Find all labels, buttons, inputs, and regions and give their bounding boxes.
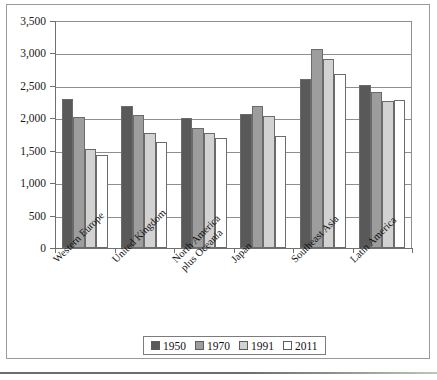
bar[interactable] bbox=[121, 106, 133, 248]
y-tick-mark bbox=[50, 118, 55, 119]
y-tick-label: 0 bbox=[2, 242, 46, 254]
bottom-rule bbox=[0, 372, 437, 374]
gridline bbox=[55, 119, 411, 120]
y-tick-label: 2,000 bbox=[2, 112, 46, 124]
legend-item-1970[interactable]: 1970 bbox=[195, 340, 230, 352]
bar[interactable] bbox=[96, 155, 108, 248]
chart-legend: 1950197019912011 bbox=[143, 336, 326, 355]
y-tick-label: 500 bbox=[2, 210, 46, 222]
y-tick-label: 1,500 bbox=[2, 145, 46, 157]
legend-item-1950[interactable]: 1950 bbox=[151, 340, 186, 352]
bar-group bbox=[181, 21, 227, 248]
legend-item-2011[interactable]: 2011 bbox=[283, 340, 318, 352]
legend-swatch-icon bbox=[283, 341, 292, 350]
y-axis-line bbox=[55, 21, 56, 249]
bar[interactable] bbox=[275, 136, 287, 248]
bar-group bbox=[300, 21, 346, 248]
gridline bbox=[55, 184, 411, 185]
y-tick-mark bbox=[50, 86, 55, 87]
y-tick-label: 3,500 bbox=[2, 15, 46, 27]
bar[interactable] bbox=[181, 118, 193, 248]
bar[interactable] bbox=[240, 114, 252, 248]
y-tick-mark bbox=[50, 53, 55, 54]
bar-group bbox=[240, 21, 286, 248]
legend-swatch-icon bbox=[151, 341, 160, 350]
bar[interactable] bbox=[263, 116, 275, 248]
y-tick-mark bbox=[50, 21, 55, 22]
y-tick-mark bbox=[50, 151, 55, 152]
bar-group bbox=[359, 21, 405, 248]
y-tick-label: 2,500 bbox=[2, 80, 46, 92]
y-tick-label: 1,000 bbox=[2, 177, 46, 189]
bar[interactable] bbox=[252, 106, 264, 248]
legend-label: 2011 bbox=[295, 340, 318, 352]
bar[interactable] bbox=[62, 99, 74, 248]
gridline bbox=[55, 54, 411, 55]
y-tick-label: 3,000 bbox=[2, 47, 46, 59]
legend-label: 1991 bbox=[251, 340, 274, 352]
gridline bbox=[55, 217, 411, 218]
legend-swatch-icon bbox=[195, 341, 204, 350]
gridline bbox=[55, 87, 411, 88]
y-tick-mark bbox=[50, 216, 55, 217]
bar[interactable] bbox=[311, 49, 323, 248]
gridline bbox=[55, 152, 411, 153]
legend-label: 1970 bbox=[207, 340, 230, 352]
legend-swatch-icon bbox=[239, 341, 248, 350]
figure-container: 05001,0001,5002,0002,5003,0003,500 Weste… bbox=[0, 0, 437, 380]
bar[interactable] bbox=[300, 79, 312, 248]
y-tick-mark bbox=[50, 183, 55, 184]
legend-item-1991[interactable]: 1991 bbox=[239, 340, 274, 352]
legend-label: 1950 bbox=[163, 340, 186, 352]
x-tick-mark bbox=[412, 248, 413, 253]
bar[interactable] bbox=[359, 85, 371, 248]
plot-wrapper: 05001,0001,5002,0002,5003,0003,500 Weste… bbox=[0, 0, 437, 380]
bar[interactable] bbox=[156, 142, 168, 248]
